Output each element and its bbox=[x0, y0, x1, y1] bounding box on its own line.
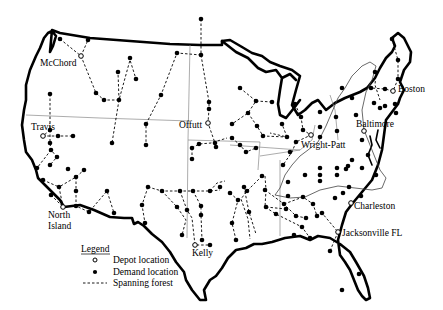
label-north-island-line1: North bbox=[48, 210, 70, 220]
legend-depot-icon bbox=[93, 258, 97, 262]
legend-demand-label: Demand location bbox=[113, 267, 178, 277]
high-demand-region bbox=[275, 62, 386, 198]
depot-north-island bbox=[61, 205, 66, 210]
legend-forest-label: Spanning forest bbox=[113, 278, 173, 288]
great-lakes-outline bbox=[222, 41, 300, 118]
legend-title: Legend bbox=[81, 244, 110, 254]
label-charleston: Charleston bbox=[354, 201, 395, 211]
depot-mcchord bbox=[79, 54, 84, 59]
legend-depot-label: Depot location bbox=[113, 255, 169, 265]
label-kelly: Kelly bbox=[192, 248, 213, 258]
depot-kelly bbox=[193, 243, 198, 248]
label-offutt: Offutt bbox=[179, 120, 202, 130]
depot-locations bbox=[41, 54, 396, 248]
us-border-outline bbox=[22, 30, 411, 300]
depot-offutt bbox=[206, 121, 211, 126]
legend-demand-icon bbox=[93, 270, 97, 274]
depot-charleston bbox=[349, 201, 354, 206]
label-jacksonville: Jacksonville FL bbox=[342, 228, 403, 238]
label-wright-patt: Wright-Patt bbox=[301, 140, 346, 150]
label-travis: Travis bbox=[31, 122, 55, 132]
depot-jacksonville bbox=[336, 230, 341, 235]
depot-travis bbox=[41, 134, 46, 139]
label-north-island-line2: Island bbox=[48, 221, 71, 231]
label-boston: Boston bbox=[398, 84, 425, 94]
depot-boston bbox=[391, 89, 396, 94]
label-baltimore: Baltimore bbox=[356, 119, 394, 129]
depot-wright-patt bbox=[309, 133, 314, 138]
us-depot-map: McChord Travis Offutt Wright-Patt Baltim… bbox=[0, 0, 443, 310]
legend: Legend Depot location Demand location Sp… bbox=[81, 244, 178, 288]
label-mcchord: McChord bbox=[40, 58, 77, 68]
depot-baltimore bbox=[362, 129, 367, 134]
